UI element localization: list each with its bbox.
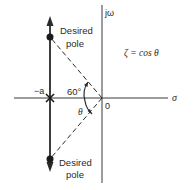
arrow-down-icon <box>47 162 54 172</box>
desired-pole-upper <box>47 34 54 41</box>
damping-equation: ζ = cos θ <box>124 48 159 59</box>
angle-60-label: 60° <box>67 86 82 97</box>
lower-pole-label-line1: Desired <box>59 157 92 168</box>
upper-pole-label-line1: Desired <box>60 25 93 36</box>
theta-label: θ <box>78 107 83 117</box>
arrow-up-icon <box>47 16 54 26</box>
desired-pole-lower <box>47 156 54 163</box>
imaginary-axis-label: jω <box>104 8 114 18</box>
lower-pole-label-line2: pole <box>66 169 84 180</box>
open-loop-pole-label: −a <box>34 86 44 96</box>
upper-pole-label-line2: pole <box>66 38 84 49</box>
real-axis-label: σ <box>172 92 178 103</box>
s-plane-diagram: Desired pole Desired pole −a 60° θ 0 σ j… <box>0 0 194 190</box>
damping-line-lower <box>50 98 102 159</box>
origin-label: 0 <box>105 101 110 111</box>
